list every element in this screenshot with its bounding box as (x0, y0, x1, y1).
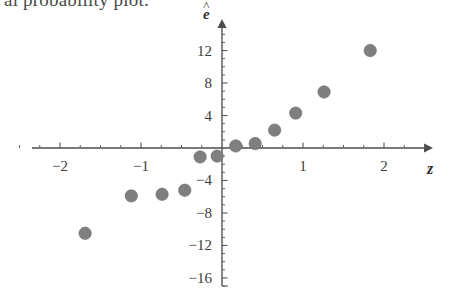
y-tick-label: −16 (0, 269, 212, 286)
data-point (364, 44, 376, 56)
data-point (268, 124, 280, 136)
x-tick-label: 2 (380, 158, 388, 175)
data-point (156, 188, 168, 200)
y-axis-arrow-icon (217, 19, 226, 28)
y-tick-label: −4 (0, 172, 212, 189)
y-tick-label: 8 (0, 75, 212, 92)
data-point (211, 150, 223, 162)
y-tick-label: −12 (0, 237, 212, 254)
data-point (230, 140, 242, 152)
data-point (194, 151, 206, 163)
y-tick-label: 4 (0, 107, 212, 124)
data-point (290, 107, 302, 119)
x-axis-label: z (427, 160, 433, 178)
normal-probability-plot: ^ e z −2−112 1284−4−8−12−16 (0, 0, 449, 294)
data-point (318, 86, 330, 98)
y-axis-label: ^ e (203, 6, 210, 23)
x-axis-arrow-icon (424, 143, 433, 152)
data-point (249, 137, 261, 149)
y-tick-label: −8 (0, 204, 212, 221)
y-axis-label-accent: ^ (203, 2, 210, 10)
y-tick-label: 12 (0, 42, 212, 59)
x-tick-label: 1 (299, 158, 307, 175)
data-point (125, 190, 137, 202)
